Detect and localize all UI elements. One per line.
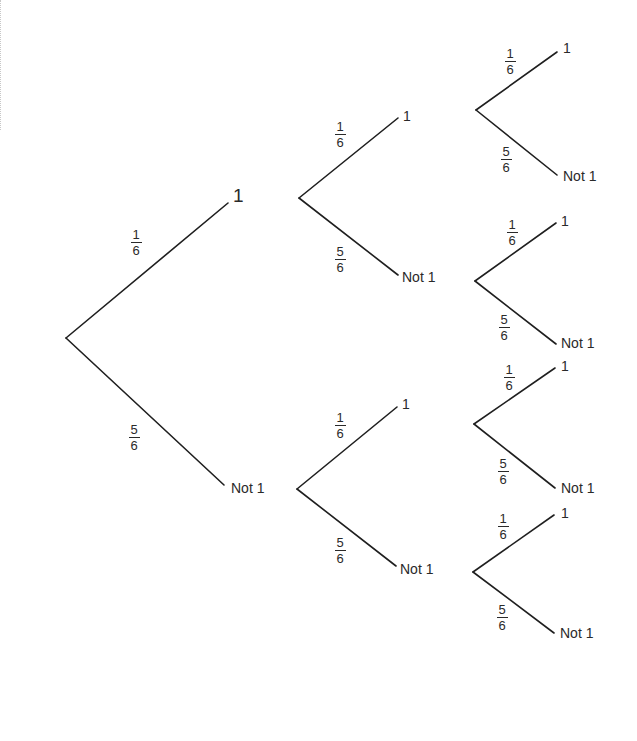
- branch-l3-d-1: [473, 515, 554, 572]
- outcome-label-l2-not1-not1: Not 1: [400, 561, 433, 577]
- outcome-label-l1-1: 1: [233, 186, 244, 206]
- probability-fraction-l1-not1: 5 6: [127, 423, 141, 452]
- branch-l2-1-not1: [299, 198, 398, 275]
- fraction-numerator: 1: [499, 512, 506, 526]
- fraction-denominator: 6: [132, 243, 139, 257]
- fraction-numerator: 5: [499, 457, 506, 471]
- branch-l1-not1: [66, 338, 224, 485]
- branch-l3-c-not1: [474, 424, 555, 488]
- branch-l3-d-not1: [473, 572, 554, 633]
- probability-fraction-l3-d-not1: 5 6: [495, 603, 509, 632]
- fraction-denominator: 6: [508, 233, 515, 247]
- fraction-denominator: 6: [336, 135, 343, 149]
- outcome-label-l2-1-1: 1: [403, 108, 411, 124]
- fraction-denominator: 6: [336, 260, 343, 274]
- outcome-label-l1-not1: Not 1: [231, 480, 264, 496]
- fraction-denominator: 6: [336, 551, 343, 565]
- fraction-numerator: 1: [508, 218, 515, 232]
- outcome-label-l2-1-not1: Not 1: [402, 269, 435, 285]
- fraction-numerator: 1: [336, 411, 343, 425]
- branch-l1-1: [66, 203, 228, 338]
- probability-fraction-l2-1-not1: 5 6: [333, 245, 347, 274]
- fraction-denominator: 6: [498, 618, 505, 632]
- probability-fraction-l1-1: 1 6: [129, 228, 143, 257]
- fraction-numerator: 5: [336, 536, 343, 550]
- outcome-label-l3-b-1: 1: [561, 213, 569, 229]
- outcome-label-l3-a-1: 1: [563, 40, 571, 56]
- tree-branches: [0, 0, 637, 741]
- probability-fraction-l3-c-not1: 5 6: [496, 457, 510, 486]
- probability-fraction-l2-not1-1: 1 6: [333, 411, 347, 440]
- branch-l2-1-1: [299, 118, 398, 198]
- fraction-denominator: 6: [336, 426, 343, 440]
- branch-l3-a-not1: [476, 110, 557, 175]
- fraction-denominator: 6: [500, 328, 507, 342]
- branch-l3-b-not1: [475, 281, 556, 344]
- probability-fraction-l3-b-not1: 5 6: [497, 313, 511, 342]
- fraction-numerator: 1: [132, 228, 139, 242]
- outcome-label-l3-d-not1: Not 1: [560, 625, 593, 641]
- outcome-label-l3-c-1: 1: [561, 358, 569, 374]
- probability-fraction-l3-c-1: 1 6: [502, 363, 516, 392]
- fraction-numerator: 1: [336, 120, 343, 134]
- fraction-numerator: 5: [336, 245, 343, 259]
- fraction-denominator: 6: [499, 527, 506, 541]
- fraction-denominator: 6: [506, 62, 513, 76]
- probability-fraction-l2-1-1: 1 6: [333, 120, 347, 149]
- probability-fraction-l3-a-1: 1 6: [503, 47, 517, 76]
- probability-fraction-l3-d-1: 1 6: [496, 512, 510, 541]
- fraction-denominator: 6: [499, 472, 506, 486]
- outcome-label-l3-d-1: 1: [561, 505, 569, 521]
- outcome-label-l3-a-not1: Not 1: [563, 168, 596, 184]
- fraction-denominator: 6: [502, 160, 509, 174]
- fraction-numerator: 5: [130, 423, 137, 437]
- probability-fraction-l2-not1-not1: 5 6: [333, 536, 347, 565]
- fraction-numerator: 1: [505, 363, 512, 377]
- probability-fraction-l3-a-not1: 5 6: [499, 145, 513, 174]
- outcome-label-l3-c-not1: Not 1: [561, 480, 594, 496]
- fraction-numerator: 5: [502, 145, 509, 159]
- fraction-numerator: 5: [498, 603, 505, 617]
- fraction-numerator: 5: [500, 313, 507, 327]
- branch-l2-not1-1: [297, 407, 397, 489]
- probability-fraction-l3-b-1: 1 6: [505, 218, 519, 247]
- fraction-denominator: 6: [505, 378, 512, 392]
- outcome-label-l3-b-not1: Not 1: [561, 335, 594, 351]
- fraction-numerator: 1: [506, 47, 513, 61]
- fraction-denominator: 6: [130, 438, 137, 452]
- outcome-label-l2-not1-1: 1: [402, 396, 410, 412]
